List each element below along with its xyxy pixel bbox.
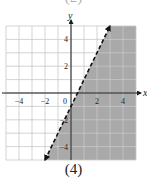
x-tick-label: 2 bbox=[95, 97, 99, 106]
x-tick-label: −2 bbox=[41, 97, 50, 106]
y-tick-label: −4 bbox=[59, 143, 68, 152]
x-tick-label: 4 bbox=[121, 97, 125, 106]
y-tick-label: 2 bbox=[64, 62, 68, 71]
figure-label: (4) bbox=[0, 161, 147, 178]
x-tick-label: 0 bbox=[63, 97, 67, 106]
y-tick-label: −2 bbox=[59, 116, 68, 125]
x-axis-label: x bbox=[142, 87, 147, 98]
y-axis-label: y bbox=[67, 10, 73, 21]
x-tick-label: −4 bbox=[15, 97, 24, 106]
inequality-graph: xy−4−2024−4−224 bbox=[0, 0, 147, 181]
y-tick-label: 4 bbox=[64, 35, 68, 44]
